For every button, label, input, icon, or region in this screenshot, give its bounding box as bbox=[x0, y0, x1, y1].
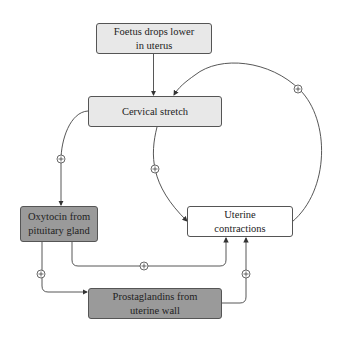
plus-icon bbox=[57, 155, 65, 163]
node-prostaglandins: Prostaglandins fromuterine wall bbox=[88, 288, 222, 319]
plus-icon bbox=[140, 262, 148, 270]
node-uterine-contractions: Uterinecontractions bbox=[187, 206, 293, 237]
node-label: pituitary gland bbox=[28, 224, 90, 238]
node-oxytocin: Oxytocin frompituitary gland bbox=[20, 206, 98, 242]
plus-icon bbox=[151, 165, 159, 173]
node-foetus-drops: Foetus drops lowerin uterus bbox=[96, 23, 212, 54]
edge-cervical-uterine bbox=[153, 127, 187, 221]
node-label: Cervical stretch bbox=[122, 105, 188, 119]
plus-icon bbox=[294, 85, 302, 93]
node-label: Oxytocin from bbox=[28, 210, 90, 224]
node-label: uterine wall bbox=[113, 304, 198, 318]
node-label: contractions bbox=[214, 222, 265, 236]
node-label: Foetus drops lower bbox=[114, 25, 195, 39]
edge-oxytocin-prostaglandins bbox=[42, 242, 87, 292]
edge-oxytocin-uterine bbox=[72, 238, 226, 266]
plus-icon bbox=[37, 270, 45, 278]
node-label: Prostaglandins from bbox=[113, 290, 198, 304]
plus-icon bbox=[242, 270, 250, 278]
node-label: Uterine bbox=[214, 208, 265, 222]
node-label: in uterus bbox=[114, 39, 195, 53]
node-cervical-stretch: Cervical stretch bbox=[88, 96, 222, 127]
